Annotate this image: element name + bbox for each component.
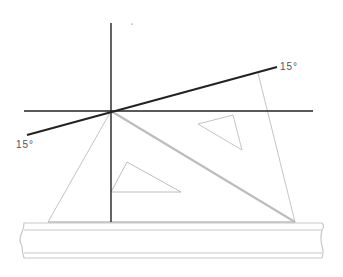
inner-cutout-upper <box>198 115 242 150</box>
15-degree-line <box>27 67 277 135</box>
drafting-diagram: 15° 15° <box>0 0 343 277</box>
t-square-ruler <box>20 223 324 258</box>
45-degree-set-square <box>48 111 295 222</box>
angle-label-lower: 15° <box>16 139 34 150</box>
stray-dot <box>131 23 132 24</box>
inner-cutout-lower <box>111 162 181 192</box>
angle-label-upper: 15° <box>280 61 298 72</box>
